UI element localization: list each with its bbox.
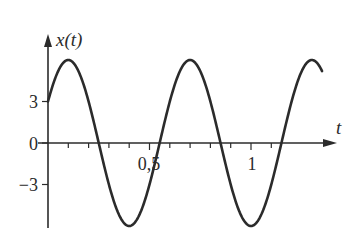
x-tick-label-1: 1 <box>248 154 257 174</box>
x-tick-label-0-5: 0,5 <box>138 154 161 174</box>
y-tick-label-neg3: −3 <box>19 175 38 195</box>
y-tick-label-0: 0 <box>29 134 38 154</box>
x-axis-label: t <box>336 117 342 138</box>
chart: x(t) t 3 0 −3 0,5 1 <box>0 0 346 228</box>
x-axis-arrow-icon <box>323 139 337 147</box>
y-tick-label-3: 3 <box>29 92 38 112</box>
y-ticks <box>42 102 48 185</box>
y-axis-label: x(t) <box>55 29 82 51</box>
y-axis-arrow-icon <box>44 34 52 47</box>
